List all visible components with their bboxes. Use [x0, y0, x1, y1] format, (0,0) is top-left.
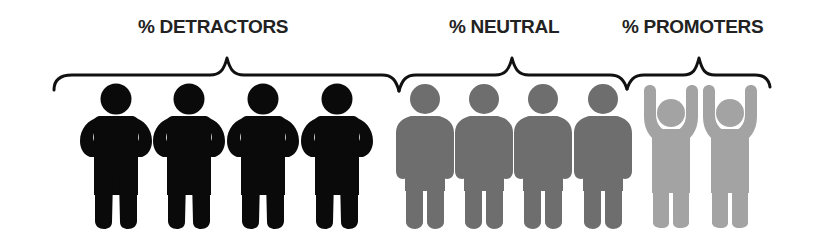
- nps-diagram: % DETRACTORS % NEUTRAL % PROMOTERS: [0, 0, 815, 241]
- detractor-person-icon: [80, 84, 152, 230]
- neutral-person-icon: [514, 84, 572, 229]
- promoter-person-icon: [703, 85, 757, 228]
- detractors-brace-icon: [54, 58, 399, 91]
- detractor-person-icon: [153, 84, 225, 230]
- detractors-group: [80, 84, 373, 230]
- neutral-person-icon: [574, 84, 632, 229]
- promoters-group: [644, 85, 757, 228]
- brackets: [54, 58, 770, 91]
- promoters-brace-icon: [627, 58, 770, 89]
- neutral-brace-icon: [399, 58, 627, 91]
- detractor-person-icon: [301, 84, 373, 230]
- diagram-artwork: [0, 0, 815, 241]
- neutral-person-icon: [396, 84, 454, 229]
- neutral-group: [396, 84, 632, 229]
- detractor-person-icon: [227, 84, 299, 230]
- promoter-person-icon: [644, 85, 698, 228]
- neutral-person-icon: [455, 84, 513, 229]
